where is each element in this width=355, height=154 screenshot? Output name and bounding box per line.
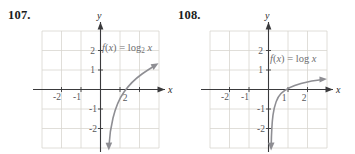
x-tick-label-neg1-108: -1 [241,92,249,102]
x-tick-label-neg2-108: -2 [221,92,229,102]
problem-108: 108. [178,0,355,154]
y-axis-arrow-108 [266,22,272,30]
function-label-107: f(x) = log2 x [102,42,152,55]
graph-107-svg: f(x) = log2 x -2 -1 2 2 1 -1 -2 x y [0,0,178,154]
graph-107: f(x) = log2 x -2 -1 2 2 1 -1 -2 x y [0,0,178,154]
problem-107: 107. [0,0,178,154]
x-axis-arrow-107 [158,87,166,93]
y-axis-arrow-107 [98,22,104,30]
function-label-108: f(x) = log x [270,53,317,65]
y-axis-letter-107: y [96,10,102,21]
y-tick-label-2-108: 2 [258,46,263,56]
y-axis-letter-108: y [264,10,270,21]
axes-108 [201,22,333,152]
y-tick-label-neg2-108: -2 [257,124,265,134]
y-tick-label-neg1-108: -1 [257,104,265,114]
y-tick-label-2-107: 2 [90,46,95,56]
x-axis-letter-107: x [167,84,173,95]
curve-log2 [109,66,155,147]
graph-108-svg: f(x) = log x -2 -1 1 2 2 1 -1 -2 x y [178,0,355,154]
x-axis-arrow-108 [326,87,334,93]
curve-arrow-down-107 [106,143,113,151]
y-tick-label-1-107: 1 [90,65,95,75]
y-tick-label-neg1-107: -1 [89,104,97,114]
x-axis-letter-108: x [335,84,341,95]
y-tick-label-1-108: 1 [258,65,263,75]
curve-arrow-right-108 [319,77,327,83]
textbook-figure-page: 107. [0,0,355,154]
x-tick-label-neg2-107: -2 [53,92,61,102]
curve-arrow-up-107 [151,63,159,70]
y-tick-label-neg2-107: -2 [89,124,97,134]
x-tick-label-neg1-107: -1 [73,92,81,102]
x-tick-label-2-107: 2 [123,93,128,103]
x-tick-label-2-108: 2 [302,93,307,103]
graph-108: f(x) = log x -2 -1 1 2 2 1 -1 -2 x y [178,0,355,154]
x-tick-label-1-108: 1 [282,93,287,103]
